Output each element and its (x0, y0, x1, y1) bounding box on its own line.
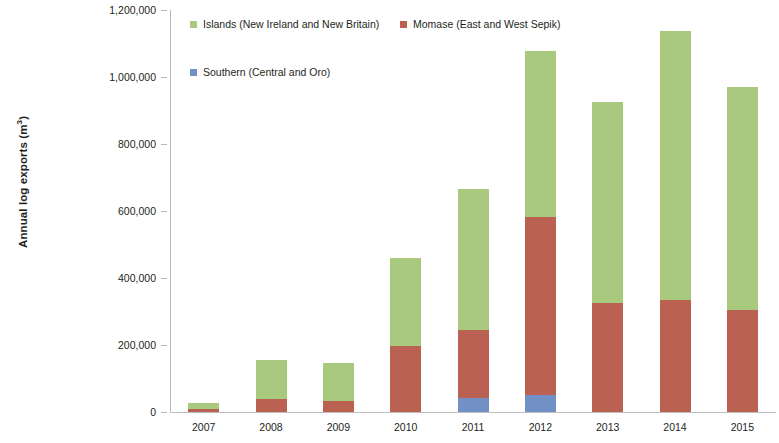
y-axis-tick-mark (161, 345, 167, 346)
bar-2013[interactable] (592, 102, 623, 412)
x-axis-tick-label-2012: 2012 (505, 421, 575, 433)
bar-segment-momase-2014[interactable] (660, 300, 691, 412)
y-axis-title-tail: ) (17, 116, 29, 120)
y-axis-tick-label: 400,000 (118, 271, 156, 285)
bar-segment-islands-2011[interactable] (458, 189, 489, 330)
y-axis-tick-label: 1,200,000 (109, 3, 156, 17)
bar-segment-islands-2014[interactable] (660, 31, 691, 300)
bar-segment-momase-2007[interactable] (188, 409, 219, 412)
bar-segment-momase-2011[interactable] (458, 330, 489, 398)
y-axis-tick-mark (161, 77, 167, 78)
x-axis-tick-label-2008: 2008 (236, 421, 306, 433)
bar-segment-islands-2012[interactable] (525, 51, 556, 217)
bar-2010[interactable] (390, 258, 421, 412)
legend-swatch-islands-icon (190, 21, 197, 28)
legend-label-southern: Southern (Central and Oro) (203, 66, 330, 78)
legend-label-momase: Momase (East and West Sepik) (413, 18, 560, 30)
y-axis-tick-mark (161, 211, 167, 212)
bar-segment-southern-2012[interactable] (525, 395, 556, 412)
x-axis-tick-label-2009: 2009 (303, 421, 373, 433)
x-axis-tick-label-2015: 2015 (707, 421, 777, 433)
y-axis-tick: 1,000,000 (0, 70, 170, 84)
bar-segment-islands-2015[interactable] (727, 87, 758, 310)
bar-segment-momase-2009[interactable] (323, 401, 354, 412)
y-axis-tick-mark (161, 412, 167, 413)
y-axis-tick-mark (161, 10, 167, 11)
y-axis-tick: 200,000 (0, 338, 170, 352)
bar-2009[interactable] (323, 363, 354, 412)
y-axis-tick: 1,200,000 (0, 3, 170, 17)
bar-segment-momase-2015[interactable] (727, 310, 758, 412)
y-axis-tick-mark (161, 144, 167, 145)
y-axis-line (170, 10, 171, 413)
bar-segment-momase-2010[interactable] (390, 346, 421, 412)
bar-segment-southern-2011[interactable] (458, 398, 489, 412)
bar-2014[interactable] (660, 31, 691, 412)
bar-segment-islands-2008[interactable] (256, 360, 287, 399)
bar-segment-momase-2012[interactable] (525, 217, 556, 395)
legend-item-islands[interactable]: Islands (New Ireland and New Britain) (190, 18, 379, 30)
y-axis-tick-label: 0 (150, 405, 156, 419)
legend-swatch-southern-icon (190, 69, 197, 76)
y-axis-tick: 600,000 (0, 204, 170, 218)
bar-2008[interactable] (256, 360, 287, 412)
bar-segment-momase-2008[interactable] (256, 399, 287, 412)
bar-segment-islands-2013[interactable] (592, 102, 623, 303)
x-axis-tick-label-2011: 2011 (438, 421, 508, 433)
x-axis-tick-label-2013: 2013 (573, 421, 643, 433)
bar-2012[interactable] (525, 51, 556, 412)
bar-segment-islands-2010[interactable] (390, 258, 421, 346)
y-axis-tick: 400,000 (0, 271, 170, 285)
bar-segment-islands-2009[interactable] (323, 363, 354, 401)
legend-item-southern[interactable]: Southern (Central and Oro) (190, 66, 330, 78)
x-axis-tick-label-2010: 2010 (371, 421, 441, 433)
bar-2011[interactable] (458, 189, 489, 412)
y-axis-tick: 800,000 (0, 137, 170, 151)
x-axis-tick-label-2007: 2007 (169, 421, 239, 433)
y-axis-tick-label: 800,000 (118, 137, 156, 151)
y-axis-tick-mark (161, 278, 167, 279)
bar-segment-momase-2013[interactable] (592, 303, 623, 412)
y-axis-tick: 0 (0, 405, 170, 419)
bar-2015[interactable] (727, 87, 758, 412)
y-axis-tick-label: 200,000 (118, 338, 156, 352)
y-axis-tick-label: 600,000 (118, 204, 156, 218)
y-axis-title: Annual log exports (m3) (15, 72, 29, 292)
y-axis-title-superscript: 3 (15, 120, 24, 125)
x-axis-tick-label-2014: 2014 (640, 421, 710, 433)
legend-label-islands: Islands (New Ireland and New Britain) (203, 18, 379, 30)
y-axis-tick-label: 1,000,000 (109, 70, 156, 84)
bar-2007[interactable] (188, 403, 219, 412)
legend-swatch-momase-icon (400, 21, 407, 28)
legend-item-momase[interactable]: Momase (East and West Sepik) (400, 18, 560, 30)
x-axis-line (170, 412, 776, 413)
stacked-bar-chart: Annual log exports (m3) 0200,000400,0006… (0, 0, 779, 443)
